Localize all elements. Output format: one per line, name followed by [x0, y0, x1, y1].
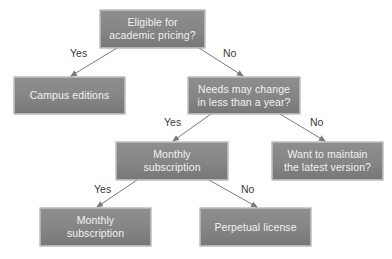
edge-label-no-perpetual: No: [241, 183, 254, 195]
edge-label-yes-monthly: Yes: [164, 116, 181, 128]
node-want-latest-version: Want to maintain the latest version?: [272, 142, 383, 180]
node-eligible-academic-pricing: Eligible for academic pricing?: [100, 10, 205, 48]
node-monthly-subscription-leaf: Monthly subscription: [40, 208, 151, 246]
node-perpetual-license: Perpetual license: [200, 208, 311, 246]
node-monthly-subscription-decision: Monthly subscription: [116, 142, 228, 180]
edge-label-no-maintain: No: [310, 116, 323, 128]
edge-label-yes-monthly-leaf: Yes: [94, 183, 111, 195]
edge-label-no-needs: No: [223, 47, 236, 59]
node-campus-editions: Campus editions: [14, 77, 125, 114]
node-needs-may-change: Needs may change in less than a year?: [188, 77, 300, 114]
edge-label-yes-campus: Yes: [70, 47, 87, 59]
decision-tree-diagram: Eligible for academic pricing? Campus ed…: [0, 0, 392, 259]
